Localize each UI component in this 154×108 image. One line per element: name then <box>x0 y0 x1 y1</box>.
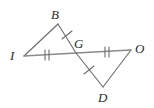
geometry-diagram <box>0 0 154 108</box>
segment-ib <box>24 24 58 56</box>
vertex-label-g: G <box>74 37 83 50</box>
segment-ig <box>24 53 76 56</box>
triangle-god <box>76 50 131 87</box>
single-tick-gd <box>84 66 94 74</box>
vertex-label-o: O <box>135 42 144 55</box>
vertex-label-i: I <box>10 49 14 62</box>
segment-go <box>76 50 131 53</box>
geometry-figure: B I G O D <box>0 0 154 108</box>
vertex-label-b: B <box>51 8 59 21</box>
vertex-label-d: D <box>98 91 107 104</box>
tick-marks-gd <box>84 66 94 74</box>
segment-do <box>103 50 131 87</box>
triangle-ibg <box>24 24 76 56</box>
